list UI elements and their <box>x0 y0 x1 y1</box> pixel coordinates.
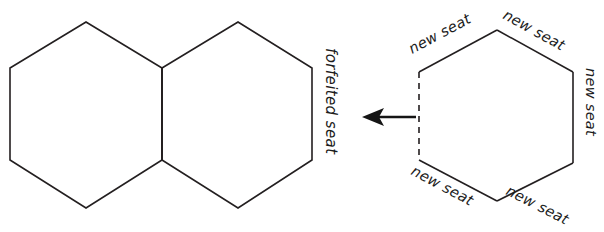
new-seat-label-top-left: new seat <box>406 10 474 57</box>
transition-arrow <box>362 108 416 126</box>
hexagon-seat-diagram: forfeited seat new seat new seat new sea… <box>0 0 604 232</box>
diagram-canvas: forfeited seat new seat new seat new sea… <box>0 0 604 232</box>
double-hexagon-group: forfeited seat <box>10 22 340 208</box>
hexagon-right <box>162 22 312 208</box>
forfeited-seat-label: forfeited seat <box>322 48 340 155</box>
single-hexagon-group: new seat new seat new seat new seat new … <box>406 7 599 228</box>
new-seat-label-bottom-right: new seat <box>504 182 573 228</box>
hexagon-left <box>10 22 162 208</box>
new-seat-label-right: new seat <box>583 68 599 137</box>
new-seat-label-top-right: new seat <box>501 7 569 54</box>
